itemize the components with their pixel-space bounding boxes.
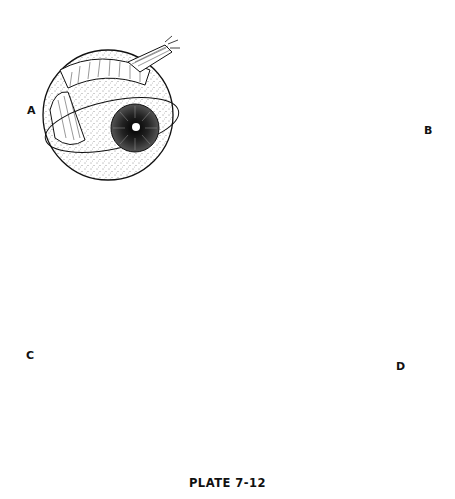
panel-label-c: C: [26, 349, 34, 362]
panel-label-a: A: [27, 104, 36, 117]
panel-label-d: D: [396, 360, 405, 373]
panel-label-b: B: [424, 124, 432, 137]
panel-a-drawing: [40, 36, 183, 180]
plate-caption: PLATE 7-12: [0, 476, 455, 490]
plate-illustration: [0, 0, 455, 499]
